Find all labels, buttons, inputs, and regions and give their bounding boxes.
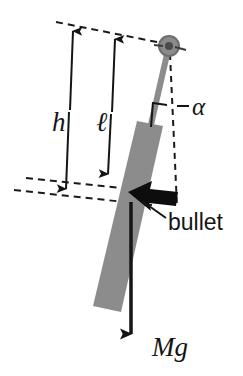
weight-label: Mg	[151, 332, 188, 362]
l-dimension-arrow-down	[108, 114, 111, 174]
h-dimension-arrow-down	[66, 112, 69, 189]
pivot-hinge-hole	[165, 42, 173, 50]
physics-diagram-figure: h ℓ α bullet Mg	[0, 0, 243, 376]
l-label: ℓ	[96, 107, 108, 137]
pendulum-bar	[93, 121, 163, 312]
bullet-label: bullet	[168, 209, 224, 235]
h-label: h	[52, 107, 66, 137]
diagram-canvas: h ℓ α bullet Mg	[0, 0, 243, 376]
h-dimension-arrow-up	[70, 31, 73, 110]
l-dimension-arrow-up	[112, 39, 115, 112]
vertical-reference-line	[170, 54, 177, 206]
alpha-label: α	[192, 93, 206, 120]
pivot-tick-left	[154, 45, 163, 46]
